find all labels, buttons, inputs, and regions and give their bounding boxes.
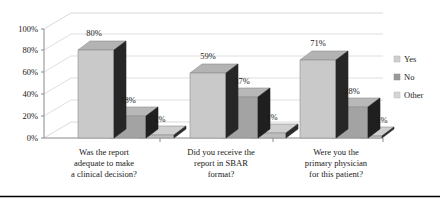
category-3-line-3: for this patient?: [309, 169, 363, 179]
value-label-other-3: 1%: [376, 115, 387, 125]
value-label-no-2: 37%: [234, 76, 250, 86]
y-tick-label-0: 0%: [27, 133, 38, 143]
category-1-line-2: adequate to make: [74, 158, 134, 168]
legend-swatch-yes: [394, 56, 400, 62]
chart-container: 100% 80% 60% 40% 20% 0%: [0, 0, 440, 204]
bar-group-1-yes: [78, 41, 126, 138]
y-tick-label-80: 80%: [22, 45, 38, 55]
category-label-3: Were you the primary physician for this …: [305, 147, 368, 179]
value-label-other-2: 4%: [266, 112, 277, 122]
bar-front: [78, 50, 114, 138]
value-label-no-3: 28%: [344, 86, 360, 96]
y-tick-label-100: 100%: [18, 24, 38, 34]
legend-swatch-other: [394, 92, 400, 98]
category-1-line-1: Was the report: [79, 147, 130, 157]
value-label-yes-3: 71%: [310, 38, 326, 48]
y-tick-label-60: 60%: [22, 67, 38, 77]
category-3-line-2: primary physician: [305, 158, 368, 168]
category-1-line-3: a clinical decision?: [71, 169, 137, 179]
bar-group-2-yes: [190, 64, 238, 138]
category-2-line-1: Did you receive the: [187, 147, 255, 157]
category-label-1: Was the report adequate to make a clinic…: [71, 147, 137, 179]
legend-swatch-no: [394, 74, 400, 80]
legend-label-no: No: [404, 72, 414, 82]
y-tick-label-20: 20%: [22, 111, 38, 121]
value-label-yes-2: 59%: [200, 51, 216, 61]
value-label-no-1: 18%: [120, 95, 136, 105]
bar-chart-3d: 100% 80% 60% 40% 20% 0%: [0, 0, 440, 204]
y-tick-label-40: 40%: [22, 89, 38, 99]
category-2-line-3: format?: [208, 169, 235, 179]
value-label-yes-1: 80%: [86, 28, 102, 38]
legend-label-yes: Yes: [404, 54, 416, 64]
x-axis-category-labels: Was the report adequate to make a clinic…: [71, 147, 368, 179]
bar-front: [190, 73, 226, 138]
bar-side: [114, 41, 126, 138]
category-3-line-1: Were you the: [313, 147, 359, 157]
legend-label-other: Other: [404, 90, 424, 100]
value-label-other-1: 2%: [154, 114, 165, 124]
bar-group-3-yes: [300, 51, 348, 138]
category-2-line-2: report in SBAR: [194, 158, 248, 168]
bar-front: [300, 60, 336, 138]
